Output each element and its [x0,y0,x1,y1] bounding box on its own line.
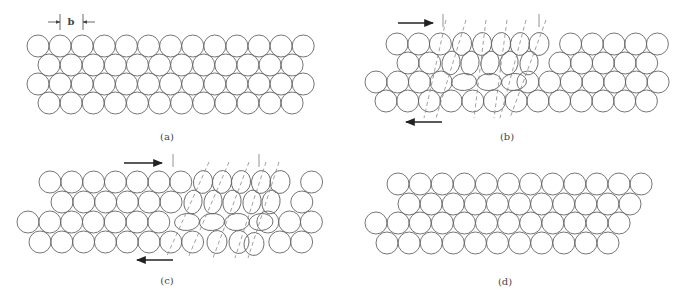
distorted-atom-ellipse [451,31,473,56]
panel-label-a: (a) [160,131,174,142]
atom-circle [614,52,636,74]
atom-circle [442,232,464,254]
atom-circle [408,33,430,55]
atom-circle [160,231,182,253]
distorted-atom-ellipse [527,31,550,57]
atom-circle [397,90,419,112]
atom-circle [301,171,323,193]
atom-circle [398,193,420,215]
atom-circle [420,232,442,254]
atom-circle [575,232,597,254]
atom-circle [104,211,126,233]
atom-circle [408,71,430,93]
atom-circle [581,33,603,55]
atom-circle [625,33,647,55]
atom-circle [82,54,104,76]
atom-circle [520,173,542,195]
atom-circle [71,73,93,95]
atom-circle [226,73,248,95]
atom-circle [291,191,313,213]
atom-circle [193,92,215,114]
distorted-atom-ellipse [206,230,228,255]
atom-circle [160,73,182,95]
atom-circle [586,173,608,195]
panel-a-perfect-lattice [27,14,314,114]
atom-circle [49,35,71,57]
atom-circle [386,33,408,55]
distorted-atom-ellipse [479,50,501,77]
distorted-atom-ellipse [228,230,250,255]
atom-circle [420,193,442,215]
atom-circle [93,35,115,57]
atom-circle [61,171,83,193]
atom-circle [138,231,160,253]
atom-circle [38,92,60,114]
atom-circle [104,92,126,114]
atom-circle [636,52,658,74]
distorted-atom-ellipse [182,189,204,216]
atom-circle [73,231,95,253]
atom-circle [586,212,608,234]
atom-circle [462,90,484,112]
atom-circle [597,193,619,215]
atom-circle [365,212,387,234]
atom-circle [539,71,561,93]
atomic-plane-dashed-line [188,162,229,258]
panel-b-dislocation-entering [365,14,669,122]
atom-circle [248,73,270,95]
atom-circle [160,35,182,57]
atom-circle [542,173,564,195]
atom-circle [93,73,115,95]
atom-circle [553,193,575,215]
atom-circle [83,171,105,193]
atom-circle [387,71,409,93]
atom-circle [259,54,281,76]
atom-circle [204,35,226,57]
atom-circle [138,35,160,57]
atom-circle [409,212,431,234]
panel-label-c: (c) [160,275,174,286]
atom-circle [215,92,237,114]
atom-circle [603,33,625,55]
distorted-atom-ellipse [268,169,291,195]
distorted-atom-ellipse [243,232,265,257]
atom-circle [148,211,170,233]
atom-circle [614,90,636,112]
distorted-atom-ellipse [174,212,200,231]
atom-circle [171,92,193,114]
atom-circle [193,54,215,76]
atom-circle [215,54,237,76]
atom-circle [592,90,614,112]
atom-circle [82,211,104,233]
distorted-atom-ellipse [490,31,512,56]
atom-circle [549,90,571,112]
atom-circle [104,54,126,76]
atom-circle [509,193,531,215]
atom-circle [575,193,597,215]
atom-circle [148,171,170,193]
panel-label-d: (d) [498,276,512,287]
distorted-atom-ellipse [471,31,493,56]
distorted-atom-ellipse [518,50,540,77]
atom-circle [531,232,553,254]
atom-circle [171,54,193,76]
atomic-plane-dashed-line [166,162,209,258]
atom-circle [237,92,259,114]
atom-circle [116,191,138,213]
atomic-plane-dashed-line [500,20,526,118]
atom-circle [553,232,575,254]
atom-circle [387,212,409,234]
atom-circle [204,73,226,95]
atom-circle [182,73,204,95]
atom-circle [104,171,126,193]
atom-circle [608,212,630,234]
atom-circle [138,73,160,95]
dislocation-slip-figure: (a) (b) (c) (d) b [0,0,680,297]
atom-circle [17,211,39,233]
atom-circle [619,193,641,215]
atom-circle [453,212,475,234]
atom-circle [560,71,582,93]
atom-circle [570,90,592,112]
atom-circle [115,35,137,57]
atom-circle [498,173,520,195]
